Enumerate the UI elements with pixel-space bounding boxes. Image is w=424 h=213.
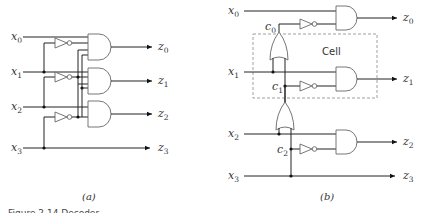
input-label-x0: x0 — [11, 30, 22, 45]
output-label-z0: z0 — [402, 11, 414, 26]
junction — [277, 132, 280, 135]
wire-c0 — [279, 24, 300, 32]
input-label-x1: x1 — [11, 65, 22, 80]
inverter-icon — [300, 19, 317, 29]
caption-b: (b) — [320, 191, 334, 202]
input-label-x2: x2 — [228, 127, 239, 142]
inverter-icon — [55, 112, 72, 122]
junction — [42, 105, 45, 108]
tap-x1-inv — [44, 43, 55, 72]
carry-label-c0: c0 — [265, 20, 276, 35]
output-label-z1: z1 — [402, 72, 414, 87]
junction — [76, 75, 79, 78]
tap-x3-inv — [44, 117, 55, 148]
or-gate-icon — [276, 102, 294, 130]
input-label-x1: x1 — [228, 65, 239, 80]
junction — [76, 115, 79, 118]
junction — [42, 146, 45, 149]
and-gate-icon — [88, 68, 111, 94]
and-gate-icon — [88, 34, 111, 60]
inverter-icon — [55, 38, 72, 48]
or-gate-icon — [270, 32, 288, 60]
inverter-icon — [55, 72, 72, 82]
input-label-x0: x0 — [228, 4, 239, 19]
output-label-z3: z3 — [402, 169, 414, 184]
input-label-x3: x3 — [228, 169, 239, 184]
output-label-z3: z3 — [157, 141, 169, 156]
and-gate-icon — [336, 130, 357, 154]
figure-caption: Figure 2.14 Decoder... — [8, 208, 107, 213]
tap-x2-inv — [44, 77, 55, 107]
output-label-z0: z0 — [157, 40, 169, 55]
cell-label: Cell — [322, 46, 341, 57]
junction — [42, 70, 45, 73]
input-label-x2: x2 — [11, 100, 22, 115]
and-gate-icon — [336, 6, 357, 30]
panel-b: Cell x0 x1 x2 x3 c0 c1 — [228, 4, 414, 202]
circuit-diagram: x0 x1 x2 x3 — [0, 0, 424, 213]
panel-a: x0 x1 x2 x3 — [11, 30, 169, 202]
inverter-icon — [300, 81, 317, 91]
caption-a: (a) — [82, 191, 96, 202]
and-gate-icon — [336, 67, 357, 91]
output-label-z1: z1 — [157, 74, 169, 89]
output-label-z2: z2 — [157, 107, 169, 122]
carry-label-c1: c1 — [272, 80, 283, 95]
inverter-icon — [300, 144, 317, 154]
input-label-x3: x3 — [11, 141, 22, 156]
junction — [271, 70, 274, 73]
output-label-z2: z2 — [402, 135, 414, 150]
carry-label-c2: c2 — [277, 143, 288, 158]
and-gate-icon — [88, 101, 111, 127]
junction — [289, 174, 292, 177]
